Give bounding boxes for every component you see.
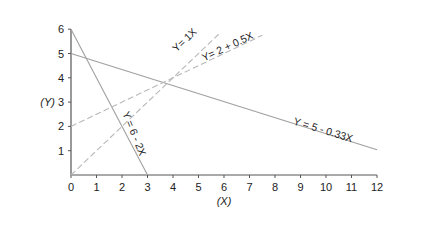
line-chart: 0123456789101112123456(X)(Y) Y = 6 - 2XY… <box>0 0 421 239</box>
x-tick-label: 7 <box>246 181 252 193</box>
x-tick-label: 4 <box>170 181 176 193</box>
y-tick-label: 6 <box>58 23 64 35</box>
x-axis-title: (X) <box>217 195 232 207</box>
x-tick-label: 12 <box>371 181 383 193</box>
y-tick-label: 5 <box>58 48 64 60</box>
x-tick-label: 1 <box>93 181 99 193</box>
x-tick-label: 2 <box>119 181 125 193</box>
x-tick-label: 8 <box>272 181 278 193</box>
y-tick-label: 4 <box>58 72 64 84</box>
line-labels: Y = 6 - 2XY = 5 - 0.33XY= 1XY= 2 + 0.5X <box>120 25 354 157</box>
x-tick-label: 9 <box>297 181 303 193</box>
y-axis-title: (Y) <box>40 96 55 108</box>
line-label: Y= 1X <box>170 25 199 54</box>
series-line <box>71 29 148 175</box>
x-tick-label: 5 <box>195 181 201 193</box>
y-tick-label: 1 <box>58 145 64 157</box>
x-tick-label: 6 <box>221 181 227 193</box>
x-tick-label: 0 <box>68 181 74 193</box>
y-tick-label: 3 <box>58 96 64 108</box>
line-label: Y= 2 + 0.5X <box>200 29 255 63</box>
line-label: Y = 5 - 0.33X <box>292 115 354 144</box>
x-tick-label: 3 <box>144 181 150 193</box>
x-tick-label: 11 <box>346 181 357 193</box>
x-tick-label: 10 <box>320 181 332 193</box>
y-tick-label: 2 <box>58 120 64 132</box>
